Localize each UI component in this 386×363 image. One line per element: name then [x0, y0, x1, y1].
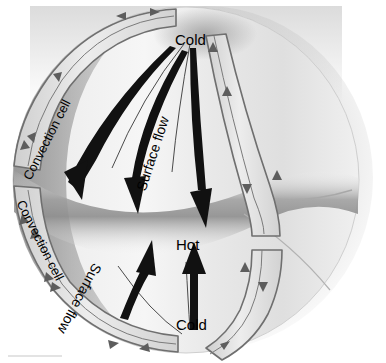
- sphere-convection-illustration: [0, 0, 386, 363]
- bottom-edge-artifact: [8, 355, 62, 357]
- label-cold-bottom: Cold: [176, 317, 207, 332]
- label-hot-equator: Hot: [176, 237, 199, 252]
- diagram-canvas: Cold Hot Cold Surface flow Surface flow …: [0, 0, 386, 363]
- label-cold-top: Cold: [175, 32, 206, 47]
